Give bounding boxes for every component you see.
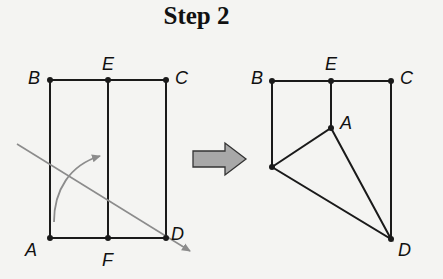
label-c: C bbox=[400, 68, 414, 88]
point-b bbox=[47, 77, 53, 83]
label-d: D bbox=[398, 240, 411, 260]
point-e bbox=[328, 78, 334, 84]
point-d bbox=[388, 236, 394, 242]
point-a bbox=[47, 235, 53, 241]
left-figure: B E C A F D bbox=[17, 54, 190, 270]
point-a bbox=[328, 125, 334, 131]
fold-diagram: B E C A F D B E C A D bbox=[0, 0, 443, 279]
label-a: A bbox=[339, 113, 352, 133]
point-d bbox=[163, 235, 169, 241]
label-e: E bbox=[102, 54, 115, 74]
point-fold bbox=[269, 164, 275, 170]
right-arrow-icon bbox=[193, 143, 246, 175]
fold-line bbox=[17, 144, 190, 251]
label-b: B bbox=[28, 68, 40, 88]
point-c bbox=[163, 77, 169, 83]
label-b: B bbox=[251, 68, 263, 88]
folded-triangle bbox=[272, 128, 391, 239]
point-c bbox=[388, 78, 394, 84]
label-e: E bbox=[325, 54, 338, 74]
point-f bbox=[105, 235, 111, 241]
right-figure: B E C A D bbox=[251, 54, 414, 260]
point-b bbox=[269, 78, 275, 84]
label-d: D bbox=[171, 224, 184, 244]
label-f: F bbox=[102, 250, 114, 270]
curved-fold-arrow bbox=[54, 156, 100, 222]
label-a: A bbox=[24, 240, 37, 260]
point-e bbox=[105, 77, 111, 83]
label-c: C bbox=[175, 68, 189, 88]
